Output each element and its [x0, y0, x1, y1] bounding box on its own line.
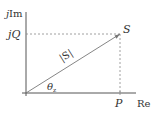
magnitude-label: |S|: [57, 47, 75, 64]
power-triangle-diagram: jIm jQ S |S| θz P Re: [0, 0, 159, 115]
real-axis-label: Re: [137, 98, 151, 109]
jq-label: jQ: [5, 28, 20, 41]
p-label: P: [114, 97, 123, 110]
imaginary-axis-label: jIm: [4, 8, 23, 19]
s-point-label: S: [123, 23, 131, 36]
s-arrowhead-icon: [115, 34, 121, 39]
angle-label: θz: [47, 81, 56, 93]
s-vector-line: [26, 34, 120, 93]
